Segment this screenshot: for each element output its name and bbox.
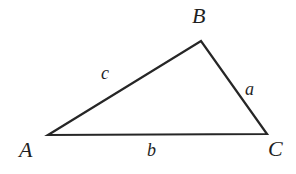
vertex-label-a: A — [19, 139, 32, 161]
vertex-label-c: C — [268, 138, 283, 160]
side-label-a: a — [245, 80, 254, 98]
vertex-label-b: B — [192, 5, 205, 27]
geometry-figure: A B C a b c — [0, 0, 296, 174]
triangle-outline — [48, 41, 267, 135]
side-label-b: b — [147, 141, 156, 159]
side-label-c: c — [101, 64, 109, 82]
